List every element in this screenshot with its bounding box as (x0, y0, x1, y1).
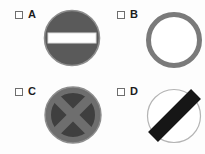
ring-icon (149, 15, 200, 66)
option-letter-c: C (28, 86, 36, 97)
option-letter-b: B (130, 9, 138, 20)
option-cell-a[interactable]: A (0, 0, 102, 77)
checkbox-c[interactable] (15, 88, 23, 96)
option-label-group-c[interactable]: C (15, 86, 36, 97)
option-cell-c[interactable]: C (0, 77, 102, 154)
figure-b-gray-ring-sign (144, 6, 204, 70)
option-label-group-d[interactable]: D (117, 86, 138, 97)
checkbox-a[interactable] (15, 11, 23, 19)
option-letter-a: A (28, 9, 36, 20)
figure-a-no-entry-sign (42, 6, 102, 70)
figure-d-circle-with-diagonal-bar-sign (144, 83, 204, 147)
option-label-group-a[interactable]: A (15, 9, 36, 20)
horizontal-bar-icon (48, 33, 96, 43)
option-label-group-b[interactable]: B (117, 9, 138, 20)
option-cell-d[interactable]: D (102, 77, 204, 154)
answer-options-grid: A B C (0, 0, 205, 154)
checkbox-d[interactable] (117, 88, 125, 96)
figure-c-circle-with-x-cross-sign (42, 83, 102, 147)
checkbox-b[interactable] (117, 11, 125, 19)
option-cell-b[interactable]: B (102, 0, 204, 77)
option-letter-d: D (130, 86, 138, 97)
